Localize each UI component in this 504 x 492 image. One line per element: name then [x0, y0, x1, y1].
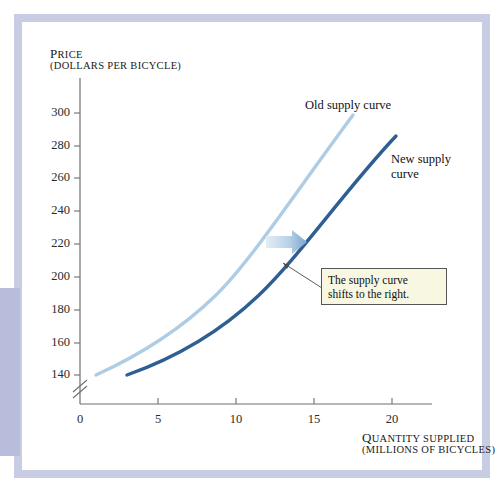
y-tick-label: 160: [36, 335, 70, 350]
shift-callout-line2: shifts to the right.: [328, 287, 440, 301]
y-tick-label: 240: [36, 203, 70, 218]
x-tick-label: 5: [146, 412, 170, 427]
shift-callout-box: The supply curve shifts to the right.: [321, 268, 447, 305]
shift-callout-line1: The supply curve: [328, 273, 440, 287]
x-tick-label: 0: [68, 412, 92, 427]
y-tick-label: 260: [36, 170, 70, 185]
bottom-margin-strip: [0, 478, 504, 492]
x-tick-label: 10: [224, 412, 248, 427]
figure-page: 300 280 260 240 220 200 180 160 140 0 5 …: [0, 0, 504, 492]
x-tick-marks: [158, 398, 392, 404]
new-supply-curve-label-line2: curve: [391, 167, 451, 182]
y-tick-marks: [74, 113, 80, 375]
new-supply-curve-label: New supply curve: [391, 152, 451, 182]
y-tick-label: 140: [36, 367, 70, 382]
old-supply-curve: [96, 115, 353, 375]
x-axis-subtitle: (MILLIONS OF BICYCLES): [362, 444, 495, 455]
y-tick-label: 220: [36, 236, 70, 251]
y-axis-title-lead: P: [50, 46, 58, 61]
new-supply-curve-label-line1: New supply: [391, 152, 451, 167]
callout-leader-line: [283, 263, 322, 288]
y-tick-label: 300: [36, 105, 70, 120]
y-tick-label: 180: [36, 302, 70, 317]
x-tick-label: 20: [380, 412, 404, 427]
x-tick-label: 15: [302, 412, 326, 427]
y-tick-label: 200: [36, 269, 70, 284]
y-axis-subtitle: (DOLLARS PER BICYCLE): [50, 60, 181, 71]
x-axis-title-lead: Q: [362, 430, 372, 445]
x-axis-title-rest: UANTITY SUPPLIED: [372, 433, 475, 444]
old-supply-curve-label: Old supply curve: [305, 98, 391, 113]
y-tick-label: 280: [36, 138, 70, 153]
y-axis-title-rest: RICE: [58, 49, 83, 60]
new-supply-curve: [127, 136, 396, 375]
